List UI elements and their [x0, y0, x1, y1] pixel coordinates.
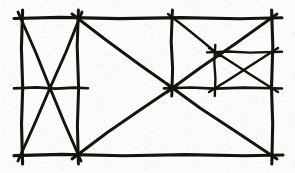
frame-bottom-edge: [14, 154, 283, 155]
frame-top-edge: [14, 17, 282, 18]
middle-cell-diagonal-down: [72, 14, 177, 91]
sketch-svg: [0, 0, 295, 173]
nested-cell-diagonals: [209, 48, 278, 92]
right-cell-diagonal-down: [167, 84, 277, 159]
divider-middle-vertical: [171, 10, 172, 96]
middle-cell-diagonal-up: [72, 85, 177, 159]
drawing-canvas: [0, 0, 295, 173]
middle-cell-diagonals: [72, 14, 177, 159]
midline-right-cell: [164, 88, 282, 89]
